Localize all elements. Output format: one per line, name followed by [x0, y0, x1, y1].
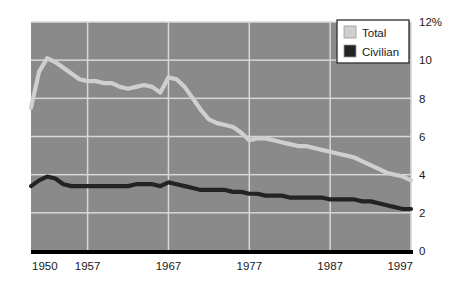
line-chart: 12%1086420 195019571967197719871997 Tota…	[0, 0, 465, 288]
x-axis-baseline	[31, 250, 413, 254]
x-tick-label: 1977	[237, 260, 263, 272]
legend-swatch-total	[344, 26, 356, 38]
legend-swatch-civilian	[344, 45, 356, 57]
y-tick-label: 12%	[419, 16, 442, 28]
legend-label-civilian: Civilian	[362, 46, 399, 58]
x-tick-label: 1950	[32, 260, 58, 272]
y-tick-label: 2	[419, 207, 425, 219]
y-tick-label: 6	[419, 131, 425, 143]
x-tick-label: 1997	[387, 260, 413, 272]
gridline-vertical	[410, 22, 412, 251]
gridline-vertical	[329, 22, 331, 251]
gridline-vertical	[168, 22, 170, 251]
y-tick-label: 4	[419, 169, 426, 181]
chart-container: 12%1086420 195019571967197719871997 Tota…	[0, 0, 465, 288]
x-tick-label: 1957	[75, 260, 101, 272]
y-axis-tick-labels: 12%1086420	[419, 16, 442, 257]
y-tick-label: 10	[419, 54, 432, 66]
x-axis-tick-labels: 195019571967197719871997	[32, 260, 413, 272]
legend-label-total: Total	[362, 27, 386, 39]
y-tick-label: 0	[419, 245, 425, 257]
x-axis-line-group	[31, 250, 413, 254]
x-tick-label: 1987	[317, 260, 343, 272]
y-tick-label: 8	[419, 93, 425, 105]
chart-legend: TotalCivilian	[337, 20, 409, 63]
gridline-vertical	[87, 22, 89, 251]
x-tick-label: 1967	[156, 260, 182, 272]
gridline-vertical	[249, 22, 251, 251]
